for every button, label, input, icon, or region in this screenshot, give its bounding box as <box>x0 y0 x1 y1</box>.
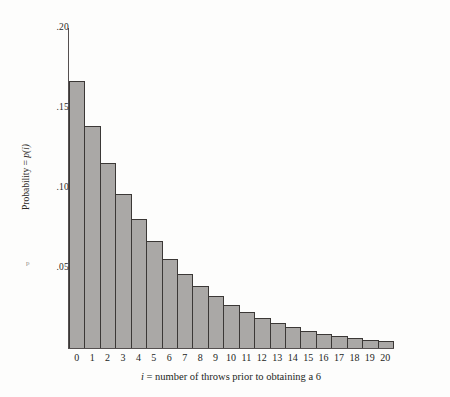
x-axis-tick-label: 20 <box>372 352 399 363</box>
bar <box>300 331 316 348</box>
bar <box>285 327 301 348</box>
bar <box>69 81 85 348</box>
bar <box>177 274 193 348</box>
bar <box>100 163 116 348</box>
bar <box>270 323 286 348</box>
bar <box>208 296 224 348</box>
bar <box>254 318 270 348</box>
y-axis-title: Probability = p(i) <box>21 117 31 237</box>
y-axis-tick-label-wrap: .15 <box>30 108 69 109</box>
x-axis-title-text: = number of throws prior to obtaining a … <box>144 371 321 382</box>
y-axis-tick-label: .15 <box>39 102 69 112</box>
geometric-distribution-figure: .20.15.10.05 Probability = p(i) i = numb… <box>0 0 450 397</box>
bar <box>239 312 255 348</box>
bar <box>223 305 239 348</box>
bar <box>192 286 208 348</box>
bar <box>146 241 162 348</box>
bar <box>347 338 363 348</box>
x-axis-line <box>68 348 394 349</box>
bar <box>131 219 147 348</box>
bar <box>162 259 178 348</box>
bar <box>331 336 347 348</box>
x-axis-title: i = number of throws prior to obtaining … <box>68 371 394 382</box>
bar <box>362 340 378 348</box>
y-axis-tick-label-wrap: .05 <box>30 268 69 269</box>
y-axis-tick-label-wrap: .10 <box>30 188 69 189</box>
bar <box>316 334 332 348</box>
bar <box>84 126 100 348</box>
stray-ink-mark: p <box>26 259 30 267</box>
y-axis-title-text: Probability = <box>21 158 31 210</box>
y-axis-title-italic: p(i) <box>21 144 31 158</box>
bar <box>378 341 394 348</box>
y-axis-tick-label-wrap: .20 <box>30 28 69 29</box>
plot-area: .20.15.10.05 <box>0 0 450 397</box>
bar <box>115 194 131 348</box>
y-axis-tick-label: .10 <box>39 182 69 192</box>
y-axis-tick-label: .05 <box>39 262 69 272</box>
y-axis-tick-label: .20 <box>39 22 69 32</box>
